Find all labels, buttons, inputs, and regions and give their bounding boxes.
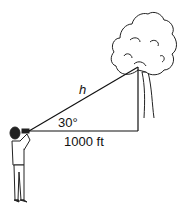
hypotenuse-label: h bbox=[79, 83, 86, 96]
angle-label: 30° bbox=[58, 116, 78, 129]
right-triangle bbox=[29, 67, 138, 131]
base-length-label: 1000 ft bbox=[64, 135, 104, 148]
diagram-canvas bbox=[0, 0, 184, 210]
hypotenuse-line bbox=[29, 67, 138, 131]
person-with-binoculars-icon bbox=[10, 127, 30, 202]
tree-icon bbox=[111, 12, 176, 118]
